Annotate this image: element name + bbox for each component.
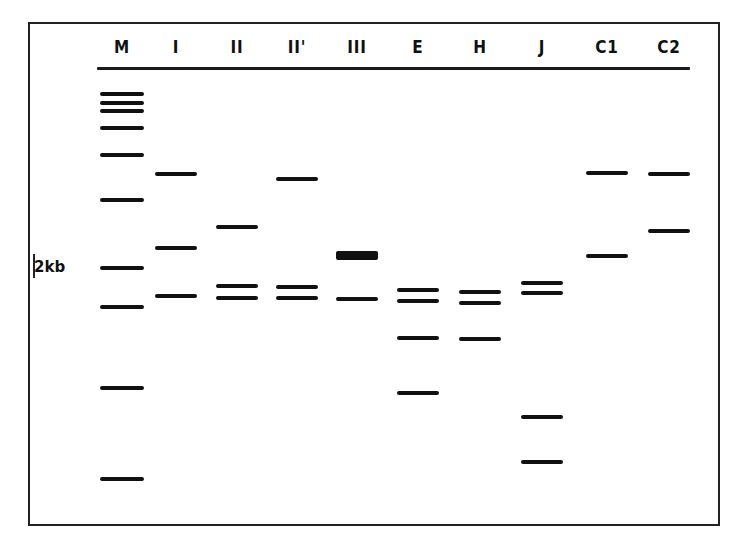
gel-band [100,386,144,390]
gel-band [100,101,144,105]
gel-band [521,415,563,419]
header-rule [97,67,690,70]
gel-band [336,297,378,301]
gel-band [459,290,501,294]
lane-label: C1 [582,36,633,57]
gel-band [216,284,258,288]
gel-band [521,291,563,295]
gel-band [100,92,144,96]
lane-label: H [455,36,506,57]
gel-band [648,229,690,233]
gel-band [155,172,197,176]
gel-band-double [336,251,378,260]
gel-band [100,305,144,309]
lane-label: M [97,36,148,57]
gel-band [397,336,439,340]
gel-band [100,126,144,130]
gel-band [216,225,258,229]
lane-label: I [151,36,202,57]
gel-band [100,266,144,270]
lane-label: J [517,36,568,57]
gel-band [397,288,439,292]
gel-band [100,477,144,481]
gel-band [276,296,318,300]
lane-label: C2 [644,36,695,57]
gel-band [397,391,439,395]
lane-label: E [393,36,444,57]
gel-band [586,254,628,258]
gel-band [648,172,690,176]
gel-band [216,296,258,300]
gel-band [100,198,144,202]
gel-band [459,337,501,341]
gel-band [276,177,318,181]
gel-frame [28,22,720,526]
gel-band [459,301,501,305]
lane-label: II [212,36,263,57]
gel-band [100,109,144,113]
gel-band [276,285,318,289]
gel-band [586,171,628,175]
lane-label: II' [272,36,323,57]
gel-band [155,294,197,298]
gel-band [521,281,563,285]
gel-band [155,246,197,250]
marker-size-label: 2kb [34,258,65,276]
gel-band [521,460,563,464]
gel-band [397,299,439,303]
lane-label: III [332,36,383,57]
gel-band [100,153,144,157]
